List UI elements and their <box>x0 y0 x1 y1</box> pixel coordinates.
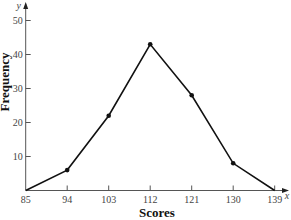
x-tick-label: 130 <box>226 194 241 205</box>
y-tick-label: 20 <box>13 117 23 128</box>
x-tick-label: 112 <box>143 194 158 205</box>
data-point-marker <box>189 93 194 98</box>
y-tick-label: 40 <box>13 49 23 60</box>
x-axis-letter: x <box>284 190 290 201</box>
data-series <box>26 42 275 191</box>
frequency-line <box>26 44 275 190</box>
x-tick-label: 121 <box>184 194 199 205</box>
y-axis-title: Frequency <box>0 52 12 111</box>
frequency-polygon-chart: y1020304050 x8594103112121130139 ScoresF… <box>0 0 291 220</box>
x-axis-title: Scores <box>139 205 175 220</box>
data-point-marker <box>106 113 111 118</box>
x-tick-label: 103 <box>101 194 116 205</box>
y-tick-label: 10 <box>13 151 23 162</box>
y-axis-arrow-icon <box>23 2 28 9</box>
data-point-marker <box>231 161 236 166</box>
data-point-marker <box>65 168 70 173</box>
data-point-marker <box>148 42 153 47</box>
x-axis: x8594103112121130139 <box>21 186 290 205</box>
y-tick-label: 50 <box>13 15 23 26</box>
x-tick-label: 85 <box>21 194 31 205</box>
y-axis-letter: y <box>15 0 21 11</box>
x-tick-label: 139 <box>267 194 282 205</box>
y-axis: y1020304050 <box>13 0 31 191</box>
y-tick-label: 30 <box>13 83 23 94</box>
x-tick-label: 94 <box>62 194 72 205</box>
